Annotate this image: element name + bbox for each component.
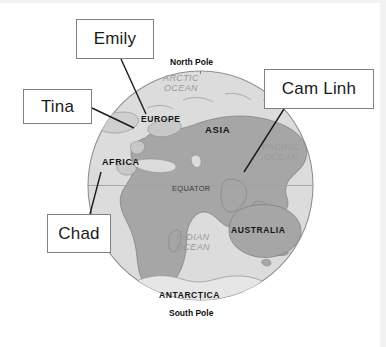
callout-box-chad[interactable]: Chad <box>47 214 111 253</box>
landmass-australia <box>229 205 301 258</box>
callout-box-tina[interactable]: Tina <box>23 89 92 124</box>
callout-label-tina: Tina <box>41 97 74 117</box>
callout-box-emily[interactable]: Emily <box>76 19 154 59</box>
callout-label-cam-linh: Cam Linh <box>282 79 356 99</box>
scan-artifact-top <box>0 0 386 3</box>
label-north-pole: North Pole <box>170 57 213 67</box>
callout-label-chad: Chad <box>58 224 99 244</box>
label-south-pole: South Pole <box>169 308 213 318</box>
callout-box-cam-linh[interactable]: Cam Linh <box>264 69 374 109</box>
landmass-new-zealand <box>299 265 307 272</box>
scan-artifact-right <box>380 0 386 347</box>
world-globe-diagram: North Pole ARCTIC OCEAN EUROPE ASIA AFRI… <box>0 0 386 347</box>
callout-label-emily: Emily <box>94 29 137 49</box>
